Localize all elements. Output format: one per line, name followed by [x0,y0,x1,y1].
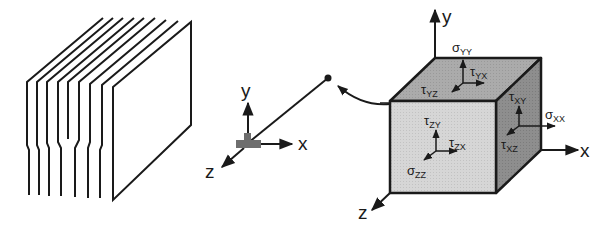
layer-front-panel [113,22,191,200]
position-vector [248,78,328,143]
layer-line-8 [100,21,178,198]
label-sigma-yy: σYY [452,40,472,57]
z-axis-arrow [222,148,244,167]
middle-z-label: z [205,161,215,182]
pointer-arrow [338,86,390,104]
stress-cube: y x z σYY τYX τYZ τXY σXX τXZ τZY τZX σ [358,6,590,223]
stress-diagram: y x z y x z [0,0,599,247]
cube-x-label: x [580,140,590,161]
middle-x-label: x [298,133,308,154]
label-sigma-xx: σXX [545,107,565,124]
mount-bracket-base [236,140,261,148]
cube-z-axis [372,193,390,210]
middle-y-label: y [241,80,251,101]
cube-front-face [390,101,496,193]
cube-z-label: z [358,202,368,223]
cube-y-label: y [442,6,452,27]
layer-stack [27,18,191,200]
middle-axes: y x z [205,75,332,183]
point-marker [325,75,332,82]
